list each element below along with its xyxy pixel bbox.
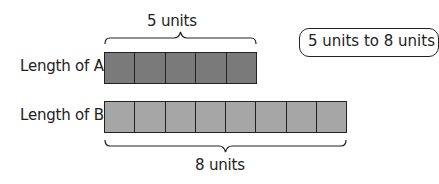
label-length-a: Length of A [20, 57, 104, 75]
bar-length-b [104, 101, 347, 133]
top-brace-icon [104, 30, 257, 46]
bar-length-a [104, 52, 257, 84]
callout-text: 5 units to 8 units [308, 32, 435, 50]
brace-label-b: 8 units [195, 156, 245, 174]
bottom-brace-icon [104, 138, 347, 154]
brace-label-a: 5 units [147, 12, 197, 30]
label-length-b: Length of B [20, 106, 104, 124]
